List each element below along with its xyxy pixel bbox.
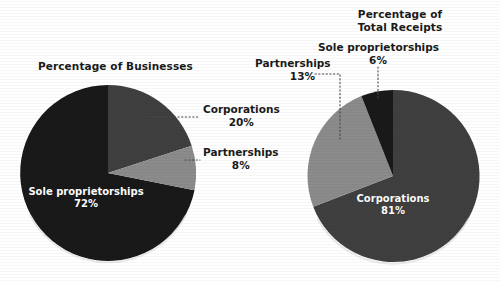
callout-sole-proprietorships-right-name: Sole proprietorships — [318, 41, 438, 54]
callout-corporations-left: Corporations 20% — [203, 103, 280, 129]
callout-corporations-left-value: 20% — [203, 116, 280, 129]
chart-title-total-receipts: Percentage of Total Receipts — [330, 8, 470, 34]
callout-partnerships-right-name: Partnerships — [255, 57, 315, 70]
chart-title-businesses: Percentage of Businesses — [38, 60, 193, 73]
callout-corporations-left-name: Corporations — [203, 103, 280, 116]
slice-label-sole-proprietorships-left-value: 72% — [16, 198, 156, 210]
slice-label-corporations-right-value: 81% — [333, 205, 453, 217]
pie-chart-figure: Percentage of Businesses Corporations 20… — [0, 0, 500, 281]
pie-businesses — [20, 85, 196, 262]
slice-label-sole-proprietorships-left: Sole proprietorships 72% — [16, 186, 156, 210]
callout-sole-proprietorships-right-value: 6% — [318, 54, 438, 67]
slice-label-corporations-right-name: Corporations — [333, 193, 453, 205]
callout-partnerships-left: Partnerships 8% — [203, 146, 279, 172]
chart-title-total-receipts-line2: Total Receipts — [330, 21, 470, 34]
slice-label-corporations-right: Corporations 81% — [333, 193, 453, 217]
callout-sole-proprietorships-right: Sole proprietorships 6% — [318, 41, 438, 67]
callout-partnerships-right-value: 13% — [255, 70, 315, 83]
slice-label-sole-proprietorships-left-name: Sole proprietorships — [16, 186, 156, 198]
chart-title-total-receipts-line1: Percentage of — [330, 8, 470, 21]
callout-partnerships-left-name: Partnerships — [203, 146, 279, 159]
pie-total-receipts — [307, 90, 479, 264]
callout-partnerships-right: Partnerships 13% — [255, 57, 315, 83]
callout-partnerships-left-value: 8% — [203, 159, 279, 172]
